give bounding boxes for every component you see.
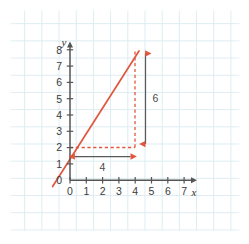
x-tick-label-7: 7 <box>181 185 187 197</box>
y-tick-label-2: 2 <box>56 141 62 153</box>
run-measurement-label: 4 <box>100 161 106 173</box>
x-tick-label-4: 4 <box>132 185 138 197</box>
plot-area: 0 1 2 3 4 5 6 7 0 1 2 3 4 5 6 7 8 y x 4 … <box>0 0 249 244</box>
y-tick-label-3: 3 <box>56 125 62 137</box>
y-tick-label-1: 1 <box>56 158 62 170</box>
rise-measurement-label: 6 <box>153 92 159 104</box>
y-tick-label-7: 7 <box>56 60 62 72</box>
x-tick-label-6: 6 <box>165 185 171 197</box>
y-axis-label: y <box>61 36 67 48</box>
graph-figure: 0 1 2 3 4 5 6 7 0 1 2 3 4 5 6 7 8 y x 4 … <box>0 0 249 244</box>
x-tick-label-1: 1 <box>83 185 89 197</box>
plotted-line <box>53 51 139 187</box>
x-tick-label-0: 0 <box>67 185 73 197</box>
y-tick-label-6: 6 <box>56 76 62 88</box>
x-tick-label-3: 3 <box>116 185 122 197</box>
y-tick-label-0: 0 <box>56 174 62 186</box>
x-tick-label-2: 2 <box>100 185 106 197</box>
x-axis-label: x <box>191 186 197 198</box>
x-tick-label-5: 5 <box>149 185 155 197</box>
y-tick-label-5: 5 <box>56 93 62 105</box>
y-tick-label-4: 4 <box>56 109 62 121</box>
